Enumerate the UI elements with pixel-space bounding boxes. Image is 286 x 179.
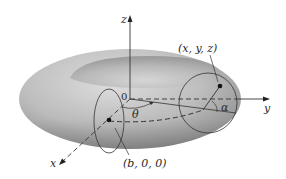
point-xyz	[218, 84, 223, 89]
surface-point-label: (x, y, z)	[178, 42, 217, 55]
y-axis-label: y	[263, 102, 271, 115]
alpha-label: α	[221, 101, 229, 114]
torus-diagram: z y x 0 θ α (x, y, z) (b, 0, 0)	[0, 0, 286, 179]
theta-label: θ	[132, 108, 139, 121]
origin-label: 0	[121, 91, 127, 102]
x-axis-label: x	[50, 157, 57, 170]
center-point-label: (b, 0, 0)	[123, 157, 167, 170]
z-axis-label: z	[120, 13, 127, 26]
point-b00	[107, 118, 112, 123]
